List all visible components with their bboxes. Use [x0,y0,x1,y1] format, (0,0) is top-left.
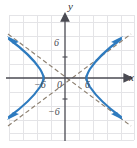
asymptote-lines [8,34,131,126]
x-tick-label-neg6: −6 [34,80,46,90]
y-tick-label-pos6: 6 [54,38,59,48]
x-axis-label: x [129,72,134,83]
origin-label: 0 [57,80,62,90]
hyperbola-graph-figure: y x 0 −6 6 6 −6 [0,0,137,148]
axis-lines [6,14,132,142]
y-tick-label-neg6: −6 [48,107,60,117]
y-axis-label: y [68,1,73,12]
graph-canvas [0,0,137,148]
x-tick-label-pos6: 6 [85,80,90,90]
